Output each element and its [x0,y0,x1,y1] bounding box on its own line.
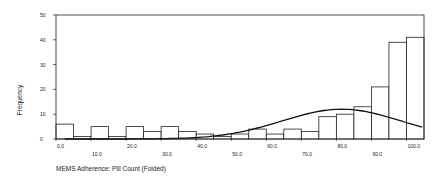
x-tick-label: 10.0 [92,151,102,157]
y-tick-label: 50 [40,12,46,18]
histogram-bar [336,114,354,139]
x-tick-label: 40.0 [197,143,207,149]
y-tick-label: 30 [40,62,46,68]
x-tick-label: 80.0 [337,143,347,149]
x-tick-label: 20.0 [127,143,137,149]
histogram-chart: 01020304050 0.010.020.030.040.050.060.07… [0,0,439,180]
y-axis-ticks: 01020304050 [40,12,56,142]
histogram-bar [161,127,179,139]
y-tick-label: 20 [40,86,46,92]
histogram-bar [91,127,109,139]
x-tick-label: 90.0 [372,151,382,157]
histogram-bar [266,134,284,139]
x-axis-label: MEMS Adherence: Pill Count (Folded) [56,165,166,173]
histogram-bar [284,129,302,139]
histogram-bars [56,37,424,139]
x-tick-label: 70.0 [302,151,312,157]
y-tick-label: 10 [40,111,46,117]
x-tick-label: 50.0 [232,151,242,157]
histogram-bar [144,132,162,139]
y-tick-label: 0 [40,136,43,142]
x-tick-label: 30.0 [162,151,172,157]
histogram-bar [301,132,319,139]
histogram-bar [126,127,144,139]
histogram-bar [231,134,249,139]
histogram-bar [319,117,337,139]
histogram-bar [249,129,267,139]
x-tick-label: 60.0 [267,143,277,149]
x-axis-ticks: 0.010.020.030.040.050.060.070.080.090.01… [56,139,420,157]
histogram-bar [389,42,407,139]
x-tick-label: 100.0 [407,143,420,149]
x-tick-label: 0.0 [57,143,64,149]
y-tick-label: 40 [40,37,46,43]
histogram-bar [56,124,74,139]
y-axis-label: Frequency [16,84,24,115]
